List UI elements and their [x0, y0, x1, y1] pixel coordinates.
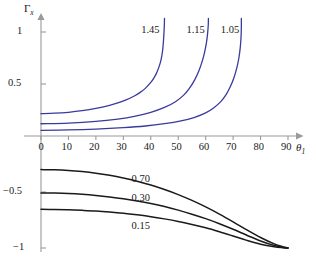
- y-axis-ticks: [41, 32, 46, 248]
- y-axis-title: Γx: [24, 3, 34, 17]
- x-tick-label-60: 60: [199, 142, 210, 153]
- curve-label-0-30: 0.30: [132, 193, 150, 204]
- axes-group: [24, 13, 304, 252]
- curve-label-0-70: 0.70: [132, 174, 150, 185]
- x-tick-label-20: 20: [89, 142, 100, 153]
- x-tick-label-10: 10: [61, 142, 72, 153]
- x-axis-title: θ1: [296, 142, 305, 156]
- plot-canvas: [0, 0, 316, 264]
- x-tick-label-0: 0: [39, 142, 44, 153]
- curve-label-1-45: 1.45: [141, 25, 159, 36]
- data-curves-layer: [41, 18, 288, 248]
- y-tick-label-minus-1: −1: [13, 242, 24, 253]
- x-tick-label-50: 50: [171, 142, 182, 153]
- x-tick-label-90: 90: [281, 142, 292, 153]
- x-tick-label-40: 40: [144, 142, 155, 153]
- y-axis-arrow-icon: [37, 13, 44, 20]
- x-tick-label-80: 80: [254, 142, 265, 153]
- curve-label-1-15: 1.15: [186, 25, 204, 36]
- y-axis-title-subscript: x: [30, 8, 33, 17]
- y-tick-label-1: 1: [17, 26, 22, 37]
- curve-1-15: [41, 18, 208, 123]
- x-axis-ticks: [41, 136, 288, 140]
- y-tick-label-0-5: 0.5: [8, 78, 21, 89]
- x-tick-label-30: 30: [116, 142, 127, 153]
- chart-figure: 1 0.5 −0.5 −1 0 10 20 30 40 50 60 70 80 …: [0, 0, 316, 264]
- curve-0-30: [41, 193, 288, 248]
- curve-0-15: [41, 209, 288, 248]
- curve-label-0-15: 0.15: [132, 221, 150, 232]
- y-tick-label-minus-0-5: −0.5: [3, 186, 22, 197]
- x-axis-title-subscript: 1: [301, 147, 305, 156]
- x-axis-arrow-icon: [296, 132, 304, 139]
- x-tick-label-70: 70: [226, 142, 237, 153]
- curve-label-1-05: 1.05: [221, 25, 239, 36]
